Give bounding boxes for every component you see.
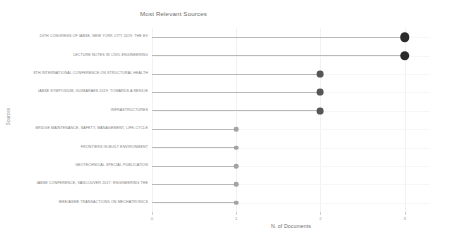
lollipop-stem — [152, 184, 236, 185]
y-axis-tick-label: FRONTIERS IN BUILT ENVIRONMENT — [81, 146, 148, 150]
y-axis-tick-label: INFRASTRUCTURES — [111, 109, 148, 113]
lollipop-marker[interactable] — [234, 164, 239, 169]
lollipop-marker[interactable] — [317, 71, 324, 78]
chart-title: Most Relevant Sources — [140, 10, 207, 17]
y-axis-tick-label: IABSE SYMPOSIUM, GUIMARAES 2019: TOWARDS… — [38, 91, 148, 95]
y-axis-tick-label: IABSE CONFERENCE, VANCOUVER 2017: ENGINE… — [37, 183, 148, 187]
most-relevant-sources-chart: Most Relevant Sources Sources 20TH CONGR… — [0, 0, 450, 243]
x-axis-tickmark — [320, 212, 321, 215]
x-axis-title: N. of Documents — [152, 223, 430, 229]
lollipop-stem — [152, 74, 320, 75]
x-axis-tick-label: 3 — [403, 216, 405, 221]
y-axis-tick-label: IEEE/ASME TRANSACTIONS ON MECHATRONICS — [59, 201, 148, 205]
lollipop-stem — [152, 147, 236, 148]
x-axis-tick-label: 2 — [319, 216, 321, 221]
plot-area — [152, 28, 430, 212]
lollipop-marker[interactable] — [400, 32, 410, 42]
lollipop-stem — [152, 202, 236, 203]
lollipop-stem — [152, 92, 320, 93]
lollipop-marker[interactable] — [234, 201, 239, 206]
y-axis-tick-label: 20TH CONGRESS OF IABSE, NEW YORK CITY 20… — [40, 35, 148, 39]
lollipop-marker[interactable] — [234, 182, 239, 187]
y-axis-tick-label: LECTURE NOTES IN CIVIL ENGINEERING — [73, 54, 148, 58]
y-axis-tick-label: BRIDGE MAINTENANCE, SAFETY, MANAGEMENT, … — [35, 127, 148, 131]
x-axis-tickmark — [405, 212, 406, 215]
y-axis-tick-label: 8TH INTERNATIONAL CONFERENCE ON STRUCTUR… — [34, 72, 149, 76]
lollipop-stem — [152, 166, 236, 167]
x-axis-tickmark — [152, 212, 153, 215]
lollipop-marker[interactable] — [234, 127, 239, 132]
lollipop-stem — [152, 55, 405, 56]
lollipop-stem — [152, 110, 320, 111]
lollipop-marker[interactable] — [317, 107, 324, 114]
y-axis-category-labels: 20TH CONGRESS OF IABSE, NEW YORK CITY 20… — [0, 28, 148, 212]
lollipop-marker[interactable] — [317, 89, 324, 96]
lollipop-stem — [152, 37, 405, 38]
lollipop-marker[interactable] — [234, 145, 239, 150]
x-axis-tickmark — [236, 212, 237, 215]
lollipop-stem — [152, 129, 236, 130]
y-axis-tick-label: GEOTECHNICAL SPECIAL PUBLICATION — [75, 164, 148, 168]
lollipop-marker[interactable] — [400, 51, 410, 61]
x-axis-tick-label: 1 — [235, 216, 237, 221]
x-axis-tick-label: 0 — [151, 216, 153, 221]
